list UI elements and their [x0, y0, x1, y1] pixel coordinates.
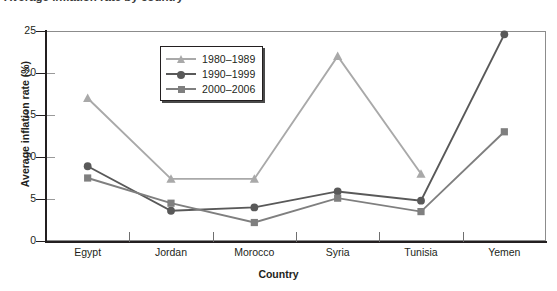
legend-swatch-triangle-icon	[166, 53, 196, 65]
legend-marker-triangle-icon	[177, 55, 185, 63]
legend-swatch-circle-icon	[166, 68, 196, 80]
y-tick-label-0: 0	[12, 234, 36, 246]
x-tick-4	[379, 232, 380, 242]
y-tick-inner-15	[47, 115, 55, 116]
legend-item-1980-1989: 1980–1989	[166, 51, 255, 66]
y-tick-inner-10	[47, 157, 55, 158]
y-tick-5	[36, 199, 45, 200]
y-tick-15	[36, 115, 45, 116]
legend-marker-square-icon	[178, 86, 185, 93]
x-tick-label-jordan: Jordan	[129, 246, 212, 258]
x-tick-3	[296, 232, 297, 242]
y-tick-10	[36, 157, 45, 158]
x-tick-2	[213, 232, 214, 242]
y-axis-line	[45, 30, 47, 243]
y-axis-tick-labels: 0510152025	[4, 0, 36, 291]
chart-legend: 1980–19891990–19992000–2006	[160, 46, 263, 101]
x-tick-label-egypt: Egypt	[46, 246, 129, 258]
chart-title-strip: Average inflation rate by country	[0, 0, 557, 9]
legend-label: 1980–1989	[202, 53, 255, 65]
x-axis-title: Country	[0, 268, 557, 280]
y-tick-0	[36, 241, 45, 242]
x-tick-1	[129, 232, 130, 242]
x-tick-label-syria: Syria	[296, 246, 379, 258]
y-tick-label-10: 10	[12, 150, 36, 162]
x-tick-label-tunisia: Tunisia	[379, 246, 462, 258]
y-tick-inner-20	[47, 73, 55, 74]
y-tick-label-25: 25	[12, 24, 36, 36]
legend-marker-circle-icon	[177, 71, 185, 79]
y-tick-label-15: 15	[12, 108, 36, 120]
x-tick-label-yemen: Yemen	[463, 246, 546, 258]
legend-swatch-square-icon	[166, 83, 196, 95]
y-tick-label-5: 5	[12, 192, 36, 204]
legend-label: 1990–1999	[202, 68, 255, 80]
plot-area	[46, 31, 546, 241]
legend-label: 2000–2006	[202, 83, 255, 95]
y-tick-label-20: 20	[12, 66, 36, 78]
y-tick-inner-5	[47, 199, 55, 200]
legend-item-1990-1999: 1990–1999	[166, 66, 255, 81]
x-tick-5	[463, 232, 464, 242]
x-tick-label-morocco: Morocco	[213, 246, 296, 258]
legend-item-2000-2006: 2000–2006	[166, 81, 255, 96]
y-tick-25	[36, 31, 45, 32]
y-tick-20	[36, 73, 45, 74]
